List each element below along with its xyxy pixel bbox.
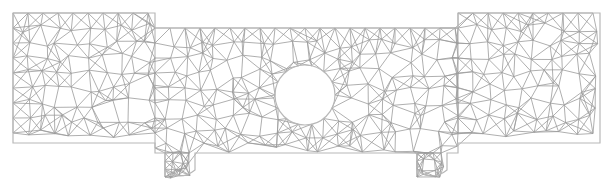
mesh-diagram	[0, 0, 608, 195]
